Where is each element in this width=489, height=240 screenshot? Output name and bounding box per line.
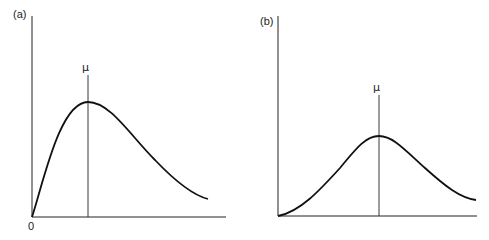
panel-b-curve (278, 136, 476, 216)
panel-a-label: (a) (13, 9, 26, 20)
panel-b-mu-label: μ (373, 82, 380, 93)
panel-b-label: (b) (260, 16, 273, 27)
panel-a-curve (32, 102, 208, 217)
panel-a-origin-label: 0 (28, 221, 34, 232)
panel-a-mu-label: μ (82, 62, 89, 73)
panel-b (278, 16, 477, 216)
panel-a (32, 16, 226, 217)
figure-canvas (0, 0, 489, 240)
